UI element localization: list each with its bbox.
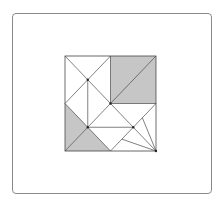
p-lower-right-dot [132, 126, 134, 128]
p-lower-left-dot [87, 126, 89, 128]
square-dissection-figure [65, 56, 156, 151]
segment-line [142, 118, 156, 151]
p-upper-left-dot [87, 79, 89, 81]
p-corner-bottom-right-dot [155, 150, 157, 152]
dissection-svg [65, 56, 156, 151]
segment-line [122, 139, 156, 151]
p-center-dot [109, 102, 111, 104]
